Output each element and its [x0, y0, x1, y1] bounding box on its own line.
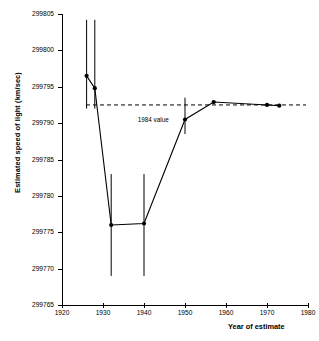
data-point	[212, 100, 216, 104]
plot-area	[0, 0, 319, 341]
data-point	[142, 221, 146, 225]
data-point	[265, 103, 269, 107]
chart-figure: Estimated speed of light (km/sec) Year o…	[0, 0, 319, 341]
data-point	[277, 104, 281, 108]
data-point	[109, 223, 113, 227]
data-point	[85, 74, 89, 78]
data-canvas	[0, 0, 319, 341]
data-point	[93, 86, 97, 90]
data-line	[87, 76, 280, 225]
data-point	[183, 117, 187, 121]
reference-line-label: 1984 value	[138, 116, 169, 123]
